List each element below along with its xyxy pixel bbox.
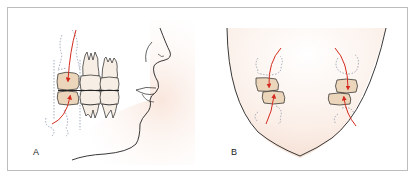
lower-right-molar (328, 93, 351, 105)
lower-molar-highlight (57, 91, 79, 105)
panel-label-a: A (33, 147, 39, 157)
upper-crown-1 (80, 75, 101, 91)
arch-shading (227, 28, 386, 158)
upper-premolar-1 (83, 52, 99, 77)
lower-crown-2 (100, 90, 119, 105)
upper-crown-2 (100, 77, 119, 91)
ghost-lower-tooth (46, 110, 68, 136)
panel-b (227, 28, 386, 158)
panel-a (46, 20, 195, 165)
panel-label-b: B (231, 147, 237, 157)
dental-diagram (0, 0, 415, 178)
lower-crown-1 (80, 90, 101, 105)
upper-left-molar (256, 78, 279, 92)
lower-root-1 (82, 104, 99, 118)
upper-right-molar (336, 79, 358, 93)
upper-premolar-2 (102, 57, 118, 79)
